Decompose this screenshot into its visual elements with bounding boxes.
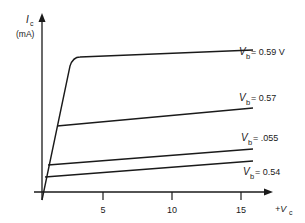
- svg-text:= 0.57: = 0.57: [251, 93, 276, 103]
- curve-vb-0.055: [48, 149, 253, 165]
- x-tick-10: 10: [167, 192, 177, 215]
- x-axis-arrow-icon: [264, 189, 273, 196]
- x-tick-label: 15: [236, 205, 246, 215]
- svg-text:b: b: [246, 52, 250, 61]
- label-vb-0.57: V b = 0.57: [239, 92, 276, 107]
- svg-text:b: b: [246, 98, 250, 107]
- y-axis-arrow-icon: [39, 13, 46, 22]
- y-axis-label-main: I: [26, 14, 29, 25]
- svg-text:= 0.59 V: = 0.59 V: [251, 47, 285, 57]
- svg-text:= .055: = .055: [253, 133, 278, 143]
- label-vb-0.59: V b = 0.59 V: [239, 46, 285, 61]
- label-vb-0.055: V b = .055: [241, 132, 278, 147]
- x-tick-5: 5: [100, 192, 105, 215]
- y-axis-unit: (mA): [16, 29, 35, 39]
- svg-text:= 0.54: = 0.54: [255, 167, 280, 177]
- x-tick-label: 10: [167, 205, 177, 215]
- svg-text:b: b: [248, 138, 252, 147]
- x-axis-label-sub: c: [289, 209, 293, 216]
- svg-text:b: b: [250, 172, 254, 181]
- x-tick-15: 15: [236, 192, 246, 215]
- output-characteristics-diagram: 5 10 15 I c (mA) +V c V b = 0.59 V V b =…: [0, 0, 305, 223]
- label-vb-0.54: V b = 0.54: [243, 166, 280, 181]
- x-tick-label: 5: [100, 205, 105, 215]
- y-axis-label-sub: c: [30, 20, 34, 27]
- curve-vb-0.57: [57, 108, 253, 126]
- x-axis-label-main: +V: [275, 204, 287, 214]
